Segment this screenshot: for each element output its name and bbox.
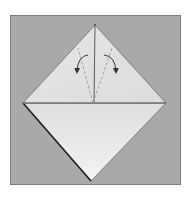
origami-diagram (10, 15, 181, 185)
top-point (94, 24, 96, 26)
origami-diagram-panel (10, 15, 181, 185)
